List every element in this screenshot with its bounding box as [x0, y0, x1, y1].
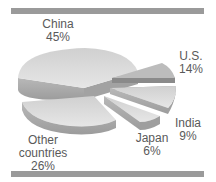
label-us: U.S. 14%	[174, 50, 208, 76]
label-japan-value: 6%	[132, 145, 172, 158]
label-india: India 9%	[172, 117, 204, 143]
slice-other-countries	[22, 96, 116, 134]
label-india-value: 9%	[172, 130, 204, 143]
bottom-rule	[11, 171, 204, 177]
label-japan: Japan 6%	[132, 132, 172, 158]
label-china: China 45%	[38, 18, 78, 44]
label-other-countries: Other countries 26%	[16, 134, 70, 173]
label-us-value: 14%	[174, 63, 208, 76]
label-china-value: 45%	[38, 31, 78, 44]
